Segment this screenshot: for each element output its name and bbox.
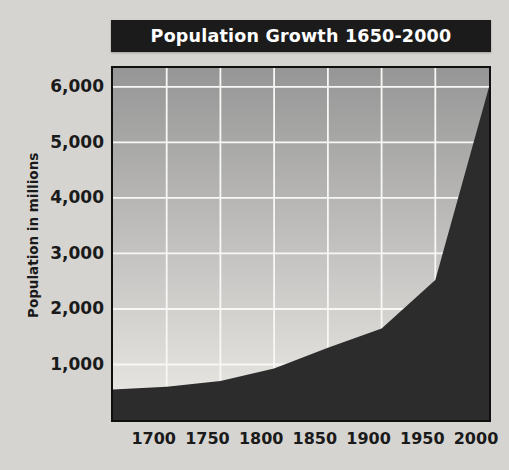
area-chart-svg (113, 68, 489, 420)
x-tick-label: 1850 (293, 429, 338, 448)
x-tick-label: 1800 (239, 429, 284, 448)
chart-figure: Population Growth 1650-2000 Population i… (0, 0, 509, 470)
x-tick-label: 2000 (454, 429, 499, 448)
y-tick-label: 1,000 (50, 354, 104, 375)
y-tick-label: 5,000 (50, 132, 104, 153)
chart-title: Population Growth 1650-2000 (151, 26, 452, 46)
y-tick-label: 2,000 (50, 298, 104, 319)
x-tick-label: 1750 (185, 429, 230, 448)
y-axis-title: Population in millions (25, 158, 45, 318)
plot-area (111, 66, 491, 422)
y-tick-label: 4,000 (50, 187, 104, 208)
x-tick-label: 1900 (346, 429, 391, 448)
y-tick-label: 3,000 (50, 243, 104, 264)
y-tick-label: 6,000 (50, 76, 104, 97)
x-tick-label: 1700 (131, 429, 176, 448)
x-tick-label: 1950 (400, 429, 445, 448)
chart-title-bar: Population Growth 1650-2000 (111, 20, 491, 52)
